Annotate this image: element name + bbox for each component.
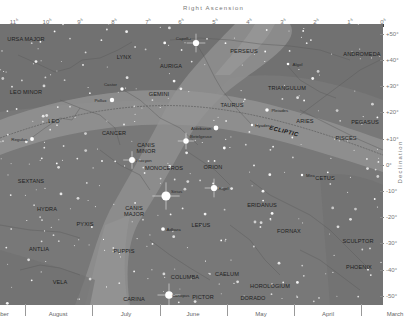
- dec-tick-mark: [380, 296, 384, 297]
- right-ascension-title: Right Ascension: [183, 5, 244, 11]
- month-label: June: [186, 311, 199, 317]
- star-chart: Right Ascension 11h10h9h8h7h6h5h4h3h2h1h…: [0, 0, 411, 328]
- constellation-label: PICTOR: [192, 294, 214, 300]
- constellation-label: AURIGA: [160, 63, 182, 69]
- constellation-label: PERSEUS: [230, 48, 257, 54]
- constellation-label: CETUS: [315, 175, 334, 181]
- dec-tick-label: -20°: [386, 214, 397, 220]
- ra-tick-mark: [383, 24, 384, 27]
- constellation-label: MONOCEROS: [145, 165, 183, 171]
- dec-tick-mark: [380, 243, 384, 244]
- constellation-label: PISCES: [335, 135, 356, 141]
- named-star: [161, 227, 165, 231]
- dec-tick-label: -30°: [386, 240, 397, 246]
- dec-tick-mark: [380, 217, 384, 218]
- constellation-label: ORION: [204, 164, 223, 170]
- constellation-label: ERIDANUS: [247, 202, 277, 208]
- month-label: May: [255, 311, 266, 317]
- constellation-label: LEO MINOR: [10, 89, 42, 95]
- constellation-label: TAURUS: [220, 102, 243, 108]
- constellation-label: SCULPTOR: [342, 238, 373, 244]
- constellation-label: PEGASUS: [351, 119, 379, 125]
- named-star: [30, 137, 34, 141]
- sky-map: URSA MAJORLYNXAURIGAPERSEUSANDROMEDALEO …: [0, 24, 383, 305]
- named-star: [287, 63, 290, 66]
- star-name-label: Castor: [104, 82, 117, 87]
- constellation-label: HYDRA: [37, 206, 57, 212]
- dec-tick-mark: [380, 191, 384, 192]
- constellation-label: CANISMINOR: [136, 142, 155, 154]
- dec-tick-mark: [380, 139, 384, 140]
- month-separator: [227, 304, 228, 316]
- star-name-label: Procyon: [136, 158, 152, 163]
- dec-tick-mark: [380, 165, 384, 166]
- dec-tick-mark: [380, 112, 384, 113]
- constellation-label: COLUMBA: [171, 274, 199, 280]
- declination-title: Declination: [397, 141, 403, 184]
- constellation-label: LEPUS: [192, 222, 211, 228]
- constellation-label: LYNX: [117, 54, 132, 60]
- month-separator: [160, 304, 161, 316]
- constellation-label: URSA MAJOR: [7, 36, 44, 42]
- month-separator: [25, 304, 26, 316]
- dec-tick-label: +40°: [386, 57, 399, 63]
- constellation-label: PYXIS: [77, 221, 94, 227]
- named-star: [110, 98, 114, 102]
- constellation-label: CARINA: [123, 296, 145, 302]
- constellation-label: PHOENIX: [346, 264, 372, 270]
- star-name-label: Rigel: [218, 186, 228, 191]
- constellation-label: ANDROMEDA: [343, 51, 380, 57]
- star-name-label: Capella: [176, 36, 191, 41]
- star-name-label: Mira: [306, 173, 315, 178]
- named-star: [301, 174, 303, 176]
- month-label: April: [322, 311, 334, 317]
- star-name-label: Hyades: [255, 123, 270, 128]
- dec-tick-label: -40°: [386, 267, 397, 273]
- star-name-label: Regulus: [11, 137, 27, 142]
- month-label: mber: [0, 311, 9, 317]
- star-name-label: Sirius: [171, 189, 182, 194]
- constellation-label: ANTLIA: [29, 246, 49, 252]
- dec-tick-label: +20°: [386, 109, 399, 115]
- named-star: [265, 108, 269, 112]
- named-star: [120, 87, 124, 91]
- constellation-label: SEXTANS: [18, 178, 44, 184]
- star-name-label: Algol: [293, 62, 303, 67]
- star-name-label: Betelgeuse: [190, 134, 212, 139]
- constellation-label: LEO: [48, 118, 60, 124]
- star-name-label: Adhara: [167, 227, 181, 232]
- star-name-label: Pleiades: [271, 108, 288, 113]
- named-star: [251, 124, 253, 126]
- dec-tick-mark: [380, 34, 384, 35]
- month-label: March: [387, 311, 404, 317]
- month-separator: [361, 304, 362, 316]
- dec-tick-mark: [380, 60, 384, 61]
- named-star: [214, 126, 219, 131]
- dec-tick-mark: [380, 86, 384, 87]
- constellation-label: FORNAX: [277, 228, 301, 234]
- constellation-label: HOROLOGIUM: [250, 283, 290, 289]
- star-name-label: Aldebaran: [191, 126, 211, 131]
- month-separator: [92, 304, 93, 316]
- constellation-label: ARIES: [296, 118, 313, 124]
- constellation-label: TRIANGULUM: [268, 85, 306, 91]
- star-name-label: Pollux: [94, 98, 106, 103]
- dec-tick-label: +30°: [386, 83, 399, 89]
- month-separator: [294, 304, 295, 316]
- month-label: July: [121, 311, 132, 317]
- constellation-label: CAELUM: [215, 271, 239, 277]
- constellation-label: GEMINI: [149, 91, 170, 97]
- constellation-label: CANCER: [102, 130, 126, 136]
- dec-tick-label: -50°: [386, 293, 397, 299]
- constellation-label: PUPPIS: [113, 248, 134, 254]
- month-label: August: [49, 311, 68, 317]
- sky-background: [0, 24, 383, 305]
- dec-tick-label: -10°: [386, 188, 397, 194]
- dec-tick-label: +50°: [386, 31, 399, 37]
- constellation-label: DORADO: [240, 295, 265, 301]
- star-name-label: Canopus: [172, 293, 190, 298]
- constellation-label: VELA: [53, 279, 68, 285]
- constellation-label: CANISMAJOR: [124, 205, 144, 217]
- dec-tick-mark: [380, 270, 384, 271]
- dec-tick-label: 0°: [386, 162, 392, 168]
